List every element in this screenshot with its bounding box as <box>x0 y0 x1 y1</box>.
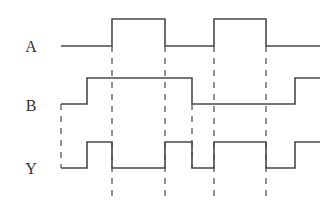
dashed-guides <box>61 46 266 198</box>
signal-label-b: B <box>26 97 37 114</box>
waveform-b <box>61 78 320 104</box>
waveforms <box>61 19 320 168</box>
waveform-y <box>61 142 320 168</box>
timing-diagram: A B Y <box>0 0 336 203</box>
waveform-a <box>61 19 320 46</box>
signal-labels: A B Y <box>25 38 37 177</box>
signal-label-y: Y <box>25 160 37 177</box>
signal-label-a: A <box>25 38 37 55</box>
